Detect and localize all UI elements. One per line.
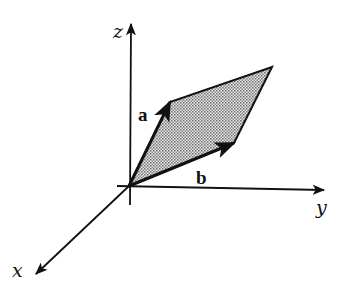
vector-b-label: b bbox=[196, 167, 207, 188]
x-axis-label: x bbox=[12, 259, 23, 281]
vector-diagram: z y x a b bbox=[0, 0, 354, 300]
vector-a-label: a bbox=[138, 104, 148, 125]
x-axis bbox=[36, 186, 129, 274]
diagram-canvas: z y x a b bbox=[0, 0, 354, 300]
y-axis-label: y bbox=[315, 196, 327, 218]
z-axis-label: z bbox=[112, 20, 124, 42]
z-axis bbox=[130, 24, 131, 205]
y-axis bbox=[117, 186, 324, 190]
